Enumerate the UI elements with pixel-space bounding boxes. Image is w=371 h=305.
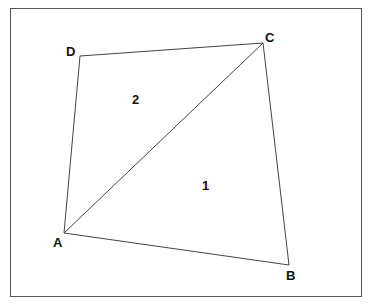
- edge-ab: [64, 233, 289, 265]
- edge-bc: [263, 43, 289, 265]
- vertex-label-c: C: [265, 31, 274, 44]
- edge-da: [64, 56, 80, 233]
- region-label-1: 1: [202, 179, 209, 192]
- edge-cd: [80, 43, 263, 56]
- diagram-canvas: A B C D 1 2: [0, 0, 371, 305]
- edge-ac: [64, 43, 263, 233]
- quadrilateral-svg: [0, 0, 371, 305]
- vertex-label-a: A: [53, 236, 62, 249]
- region-label-2: 2: [132, 93, 139, 106]
- vertex-label-d: D: [66, 45, 75, 58]
- vertex-label-b: B: [286, 269, 295, 282]
